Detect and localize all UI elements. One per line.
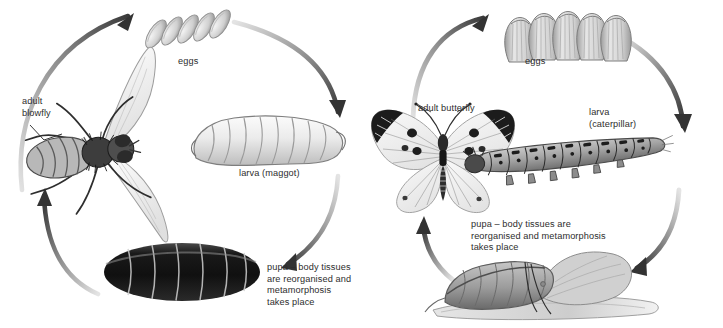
blowfly-life-cycle: eggs adult blowfly larva (maggot) pupa –… [0,0,362,328]
fly-pupa-label: pupa – body tissues are reorganised and … [267,262,351,308]
fly-eggs-icon [142,7,235,52]
arrow-larva-to-pupa [281,176,338,271]
maggot-icon [192,116,346,166]
arrow-eggs-to-larva [234,22,346,118]
butterfly-pupa-label: pupa – body tissues are reorganised and … [471,219,606,254]
life-cycle-diagram: eggs adult blowfly larva (maggot) pupa –… [0,0,723,328]
blowfly-icon [13,47,181,260]
arrow-larva-to-pupa [630,190,679,276]
adult-blowfly-label: adult blowfly [22,96,51,119]
arrow-pupa-to-adult [416,216,453,280]
fly-eggs-label: eggs [178,56,198,67]
chrysalis-icon [425,252,658,320]
butterfly-life-cycle: eggs adult butterfly larva (caterpillar)… [361,0,723,328]
fly-larva-label: larva (maggot) [239,168,300,179]
fly-pupa-icon [104,243,260,301]
butterfly-larva-label: larva (caterpillar) [589,107,636,130]
butterfly-eggs-icon [505,12,632,63]
adult-butterfly-label: adult butterfly [418,103,475,114]
butterfly-eggs-label: eggs [525,56,545,67]
arrow-pupa-to-adult [37,188,98,294]
butterfly-cycle-graphics [361,0,723,328]
